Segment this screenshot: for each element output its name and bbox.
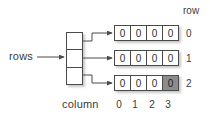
row-array-0: 0 0 0 0 — [114, 25, 179, 41]
rows-pointer-cell-1 — [67, 50, 82, 67]
cell-1-0: 0 — [115, 51, 131, 65]
cell-0-1: 0 — [131, 26, 147, 40]
cell-1-3: 0 — [163, 51, 178, 65]
rows-label: rows — [9, 51, 33, 62]
column-index-2: 2 — [147, 99, 157, 110]
rows-pointer-cell-0 — [67, 33, 82, 50]
cell-2-0: 0 — [115, 76, 131, 90]
cell-1-1: 0 — [131, 51, 147, 65]
rows-pointer-array — [66, 32, 83, 85]
row-index-1: 1 — [186, 53, 192, 64]
two-dimensional-array-diagram: rows 0 0 0 0 0 0 0 0 0 0 0 0 row 0 1 2 c… — [0, 0, 210, 116]
rows-pointer-cell-2 — [67, 68, 82, 84]
row-index-0: 0 — [186, 28, 192, 39]
cell-0-2: 0 — [147, 26, 163, 40]
column-index-3: 3 — [163, 99, 173, 110]
cell-0-0: 0 — [115, 26, 131, 40]
column-index-0: 0 — [114, 99, 124, 110]
row-header-label: row — [183, 6, 199, 16]
cell-1-2: 0 — [147, 51, 163, 65]
column-index-1: 1 — [130, 99, 140, 110]
row-array-1: 0 0 0 0 — [114, 50, 179, 66]
cell-2-2: 0 — [147, 76, 163, 90]
row-index-2: 2 — [186, 78, 192, 89]
cell-2-3-highlighted: 0 — [163, 76, 178, 90]
column-label: column — [62, 99, 99, 110]
row-array-2: 0 0 0 0 — [114, 75, 179, 91]
cell-0-3: 0 — [163, 26, 178, 40]
arrow-to-row-2 — [83, 75, 112, 83]
arrow-to-row-0 — [83, 33, 112, 41]
cell-2-1: 0 — [131, 76, 147, 90]
